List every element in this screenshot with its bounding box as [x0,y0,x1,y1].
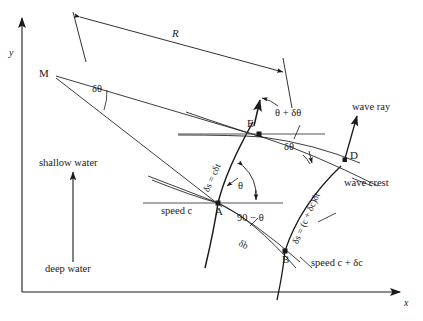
wave-ray-label: wave ray [352,102,390,113]
ds-A-pointer [227,178,238,186]
shallow-water-label: shallow water [39,158,98,169]
theta-label-A: θ [238,181,243,192]
ray-M-to-A [56,78,222,207]
point-markers [216,132,348,254]
theta-plus-delta-theta-label: θ + δθ [275,108,301,119]
axis-group [22,18,400,292]
y-axis-label: y [9,48,13,58]
horizontal-reference-lines [143,134,325,203]
point-label-A: A [215,206,223,217]
point-label-E: E [247,118,254,129]
theta-arc-A [243,166,256,198]
theta-plus-dtheta-arc-E [262,98,278,106]
point-label-D: D [350,150,358,161]
ray-curve-B-D [277,166,341,300]
x-axis-label: x [404,298,408,308]
delta-theta-label-M: δθ [92,84,102,95]
delta-theta-arc-M [104,90,107,110]
point-label-B: B [282,254,289,265]
crest-through-A-B [148,176,300,262]
speed-c-plus-dc-label: speed c + δc [311,258,363,269]
delta-theta-arc-E [303,155,310,164]
crest-through-A-B-offset [152,180,296,268]
wave-crest-curves [148,112,378,268]
wave-ray-curves [205,100,357,300]
speed-c-label: speed c [161,206,192,217]
ds-B-pointer [318,213,336,222]
deep-water-label: deep water [45,264,91,275]
rays-from-M [56,76,262,207]
delta-theta-label-E: δθ [284,142,294,153]
point-label-M: M [39,68,49,79]
radius-dimension [73,12,292,108]
wave-refraction-diagram: y x M E D A B R δθ δθ θ + δθ θ 90 − θ δs… [0,0,423,321]
ray-M-to-E [56,76,262,137]
radius-label: R [172,28,179,39]
theta-plus-dtheta-leader [294,125,300,139]
ninety-minus-theta-label: 90 − θ [237,213,264,224]
wave-crest-label: wave crest [344,178,389,189]
